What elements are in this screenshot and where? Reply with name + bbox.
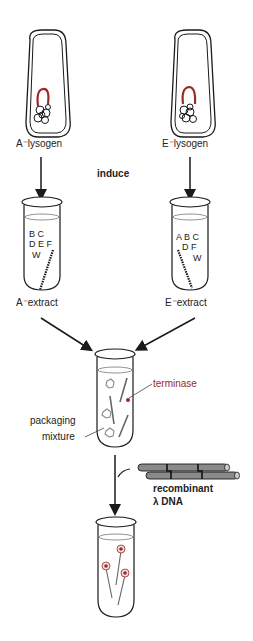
mixture-label: mixture [42, 431, 75, 443]
right-genes-row3: W [193, 253, 202, 263]
left-genes-row3: W [32, 250, 41, 260]
right-genes-row2: D F [182, 242, 197, 252]
diagram-graphics [0, 0, 253, 641]
terminase-label: terminase [153, 378, 197, 390]
induce-label: induce [97, 168, 129, 180]
left-genes-row1: B C [29, 229, 44, 239]
lambda-dna-label: λ DNA [153, 496, 183, 508]
left-genes-row2: D E F [29, 239, 52, 249]
right-genes-row1: A B C [176, 232, 199, 242]
mixture-leader-line [85, 428, 104, 437]
left-bacterium-icon [26, 30, 70, 137]
right-extract-label: E⁻extract [165, 297, 207, 309]
left-extract-label: A⁻extract [16, 297, 58, 309]
recombinant-dna-icon [138, 464, 240, 479]
packaging-label: packaging [30, 415, 76, 427]
packaged-phage-tube-icon [96, 517, 136, 617]
recombinant-label: recombinant [153, 483, 213, 495]
left-lysogen-label: A⁻lysogen [16, 138, 62, 150]
right-lysogen-label: E⁻lysogen [162, 138, 208, 150]
right-bacterium-icon [171, 30, 215, 137]
